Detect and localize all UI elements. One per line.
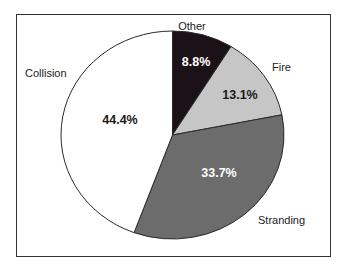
pie-chart: Other Fire Stranding Collision 8.8% 13.1… (0, 0, 343, 265)
value-other: 8.8% (182, 55, 211, 69)
value-fire: 13.1% (222, 88, 257, 102)
label-stranding: Stranding (258, 214, 305, 226)
label-other: Other (178, 20, 206, 32)
value-collision: 44.4% (102, 113, 137, 127)
value-stranding: 33.7% (201, 166, 236, 180)
label-fire: Fire (272, 61, 291, 73)
pie-slices (61, 31, 284, 239)
label-collision: Collision (25, 67, 67, 79)
